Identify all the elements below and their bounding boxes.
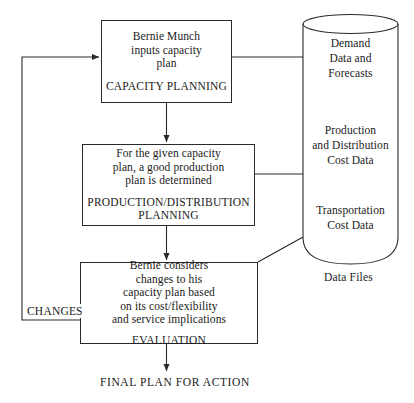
process-title: PRODUCTION/DISTRIBUTION PLANNING [87,196,249,223]
data-store-content-transportation: Transportation Cost Data [301,203,400,233]
process-description: Bernie Munch inputs capacity plan [131,30,202,71]
process-box-production-distribution-planning: For the given capacity plan, a good prod… [82,144,255,226]
process-description: Bernie considers changes to his capacity… [112,259,226,327]
connector-evaluation-to-datastore [258,237,303,262]
final-output-label: FINAL PLAN FOR ACTION [100,375,250,389]
data-store-label: Data Files [324,270,373,284]
process-title: EVALUATION [132,334,206,348]
process-box-evaluation: Bernie considers changes to his capacity… [80,262,258,344]
data-store-content-demand: Demand Data and Forecasts [303,36,398,81]
process-box-capacity-planning: Bernie Munch inputs capacity plan CAPACI… [101,20,232,103]
process-description: For the given capacity plan, a good prod… [113,147,225,188]
flowchart-diagram: Bernie Munch inputs capacity plan CAPACI… [0,0,414,403]
data-store-content-production-distribution: Production and Distribution Cost Data [300,123,401,168]
edge-label-changes: CHANGES [24,304,86,318]
process-title: CAPACITY PLANNING [106,80,227,94]
